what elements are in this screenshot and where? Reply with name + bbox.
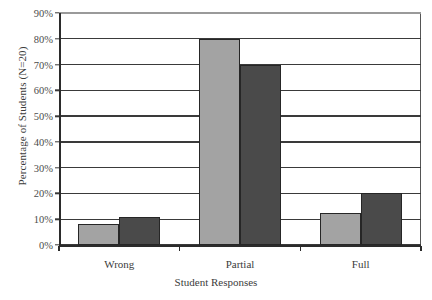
x-axis-line (59, 245, 421, 247)
bar (199, 39, 240, 245)
x-tick-mark (300, 246, 302, 251)
bar (78, 224, 119, 245)
bar (240, 65, 281, 245)
y-axis-spine (59, 13, 61, 246)
y-tick-label: 40% (0, 136, 53, 147)
x-tick-mark (420, 246, 422, 251)
plot-area (59, 13, 421, 245)
bar-chart-figure: Percentage of Students (N=20) 0%10%20%30… (0, 0, 432, 300)
bar (320, 213, 361, 245)
x-category-label: Wrong (59, 258, 179, 270)
gridline (59, 12, 421, 14)
bar (119, 217, 160, 245)
x-axis-title: Student Responses (0, 276, 432, 288)
y-tick-label: 60% (0, 85, 53, 96)
x-category-label: Partial (180, 258, 300, 270)
bar (361, 193, 402, 245)
y-tick-label: 50% (0, 111, 53, 122)
y-tick-label: 20% (0, 188, 53, 199)
y-tick-label: 30% (0, 162, 53, 173)
x-category-label: Full (301, 258, 421, 270)
y-tick-label: 70% (0, 59, 53, 70)
x-tick-mark (179, 246, 181, 251)
y-tick-label: 0% (0, 240, 53, 251)
gridline (59, 38, 421, 39)
y-tick-label: 80% (0, 33, 53, 44)
x-tick-mark (58, 246, 60, 251)
y-tick-label: 10% (0, 214, 53, 225)
y-tick-label: 90% (0, 8, 53, 19)
